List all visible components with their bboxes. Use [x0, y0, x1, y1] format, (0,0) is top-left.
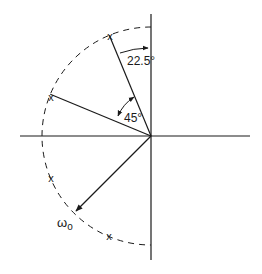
pole-marker-3: x — [48, 172, 54, 184]
angle-arc-22-5 — [120, 48, 148, 53]
omega0-label: ωo — [57, 215, 73, 232]
omega-symbol: ω — [57, 215, 67, 230]
pole-marker-2: x — [48, 91, 54, 103]
pole-diagram: x x x x 22.5° 45° ωo — [0, 0, 262, 274]
pole-marker-4: x — [106, 230, 112, 242]
pole-marker-1: x — [107, 30, 113, 42]
angle-label-45: 45° — [124, 111, 142, 125]
omega-subscript: o — [67, 221, 73, 232]
omega0-radius-arrow — [76, 136, 151, 211]
angle-label-22-5: 22.5° — [127, 54, 155, 68]
